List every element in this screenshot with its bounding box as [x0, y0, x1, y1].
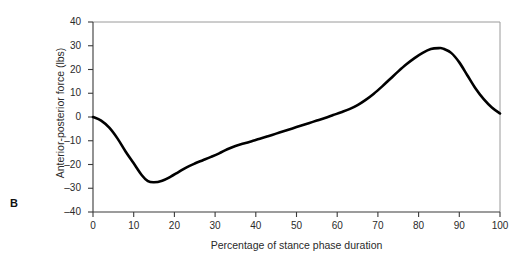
plot-area — [0, 0, 527, 270]
force-curve — [93, 48, 500, 182]
figure-panel-b: B Anterior-posterior force (lbs) Percent… — [0, 0, 527, 270]
x-axis-ticks — [93, 212, 500, 217]
